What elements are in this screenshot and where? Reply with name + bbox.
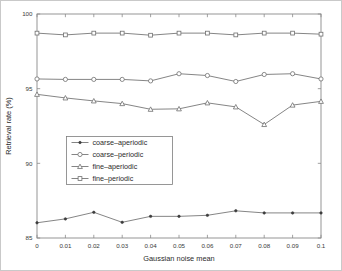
data-point-marker [64,33,68,37]
data-point-marker [291,72,295,76]
legend-item-label: coarse–aperiodic [93,138,148,147]
data-point-marker [262,31,266,35]
data-point-marker [63,77,67,81]
data-point-marker [92,77,96,81]
plot-box [37,14,321,238]
data-point-marker [235,210,238,213]
data-point-marker [291,212,294,215]
x-tick-label: 0.06 [201,242,214,249]
data-point-marker [93,211,96,214]
x-tick-label: 0.05 [173,242,186,249]
data-point-marker [120,77,124,81]
y-tick-label: 95 [26,85,33,92]
data-point-marker [206,31,210,35]
x-tick-label: 0.09 [287,242,300,249]
data-point-marker [319,77,323,81]
data-point-marker [92,31,96,35]
x-axis-title: Gaussian noise mean [143,254,215,263]
x-tick-label: 0.1 [317,242,326,249]
chart-legend[interactable]: coarse–aperiodiccoarse–periodicfine–aper… [67,137,173,185]
data-point-marker [35,77,39,81]
x-tick-label: 0.03 [116,242,129,249]
data-point-marker [149,215,152,218]
data-point-marker [206,214,209,217]
y-tick-label: 85 [26,234,33,241]
data-point-marker [79,141,82,144]
data-point-marker [36,222,39,225]
data-point-marker [263,212,266,215]
data-point-marker [177,31,181,35]
x-tick-label: 0.04 [145,242,158,249]
chart-figure: 00.010.020.030.040.050.060.070.080.090.1… [0,0,342,271]
retrieval-rate-line-chart: 00.010.020.030.040.050.060.070.080.090.1… [0,0,342,271]
data-point-marker [78,152,82,156]
data-point-marker [121,221,124,224]
y-tick-label: 100 [22,10,33,17]
data-point-marker [262,72,266,76]
series-fine-aperiodic [35,92,324,127]
data-point-marker [35,31,39,35]
series-fine-periodic [35,31,323,37]
x-tick-label: 0.01 [59,242,72,249]
data-point-marker [64,218,67,221]
data-point-marker [320,212,323,215]
x-tick-label: 0.07 [230,242,243,249]
x-tick-label: 0.02 [88,242,101,249]
data-point-marker [234,33,238,37]
series-coarse-aperiodic [36,210,323,224]
data-point-marker [291,31,295,35]
series-coarse-periodic [35,72,323,84]
legend-item-label: coarse–periodic [93,150,144,159]
data-point-marker [149,33,153,37]
data-point-marker [262,122,267,126]
x-tick-label: 0.08 [258,242,271,249]
data-point-marker [78,177,82,181]
x-tick-label: 0 [35,242,39,249]
data-point-marker [234,79,238,83]
data-series-group [35,31,324,224]
data-point-marker [149,79,153,83]
legend-item-label: fine–aperiodic [93,162,138,171]
data-point-marker [177,72,181,76]
data-point-marker [205,73,209,77]
y-axis-title: Retrieval rate (%) [4,97,13,155]
data-point-marker [120,31,124,35]
legend-item-label: fine–periodic [93,174,134,183]
data-point-marker [319,32,323,36]
y-tick-label: 90 [26,160,33,167]
data-point-marker [178,215,181,218]
